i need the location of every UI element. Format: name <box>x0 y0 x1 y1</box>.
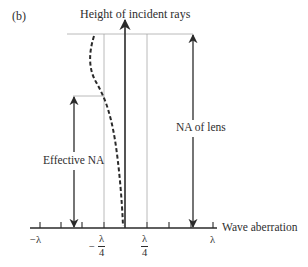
tick-label-neg-lambda: −λ <box>30 235 41 246</box>
panel-label: (b) <box>12 10 26 22</box>
tick-label-pos-quarter-lambda: λ 4 <box>141 234 148 258</box>
na-of-lens-label: NA of lens <box>176 122 226 134</box>
y-axis-label: Height of incident rays <box>80 8 190 20</box>
x-axis-ticks <box>40 222 213 228</box>
tick-label-neg-quarter-sign: − <box>89 242 95 253</box>
fraction-numerator: λ <box>141 234 148 247</box>
x-axis-label: Wave aberration <box>222 222 297 234</box>
tick-label-pos-lambda: λ <box>210 235 215 246</box>
wave-aberration-curve <box>90 36 123 226</box>
tick-label-neg-quarter-lambda: λ 4 <box>98 234 105 258</box>
fraction-numerator: λ <box>98 234 105 247</box>
effective-na-label: Effective NA <box>43 155 104 167</box>
fraction-denominator: 4 <box>98 247 105 259</box>
fraction-denominator: 4 <box>141 247 148 259</box>
